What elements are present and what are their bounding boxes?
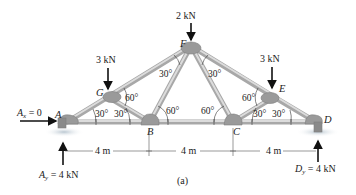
joint-label-f: F: [179, 38, 187, 49]
joint-label-e: E: [278, 83, 286, 94]
angle-g-upper: 60°: [125, 93, 139, 103]
dimension-labels: 4 m 4 m 4 m: [95, 145, 282, 156]
joint-label-b: B: [147, 126, 154, 137]
angle-e-right: 30°: [272, 109, 286, 119]
reaction-label-ay: Ay = 4 kN: [38, 169, 79, 182]
joint-label-c: C: [233, 126, 241, 137]
load-label-g: 3 kN: [96, 54, 116, 65]
gusset-g: [103, 92, 121, 103]
joint-label-a: A: [54, 109, 62, 120]
dimension-ab: 4 m: [95, 145, 111, 156]
angle-g-right: 30°: [114, 109, 128, 119]
reaction-label-dy: Dy = 4 kN: [294, 163, 336, 176]
joint-label-d: D: [323, 114, 332, 125]
angle-c-left: 60°: [201, 106, 215, 116]
joint-label-g: G: [96, 87, 104, 98]
angle-e-left: 30°: [253, 109, 267, 119]
angle-e-upper: 60°: [242, 93, 256, 103]
angle-g-left: 30°: [95, 109, 109, 119]
support-shadow-a: [44, 127, 84, 137]
gusset-e: [261, 93, 279, 104]
dimension-bc: 4 m: [181, 145, 197, 156]
angle-labels: 60° 30° 30° 30° 30° 60° 60° 60° 30° 30°: [95, 69, 286, 119]
angle-f-right: 30°: [208, 69, 222, 79]
dimension-cd: 4 m: [266, 145, 282, 156]
load-label-f: 2 kN: [176, 10, 196, 21]
load-label-e: 3 kN: [260, 53, 280, 64]
truss-diagram: 60° 30° 30° 30° 30° 60° 60° 60° 30° 30° …: [0, 0, 356, 195]
support-pin-d: [314, 122, 322, 132]
reaction-label-ax: Ax = 0: [16, 107, 42, 120]
angle-f-left: 30°: [159, 69, 173, 79]
angle-b-right: 60°: [166, 106, 180, 116]
figure-caption: (a): [177, 175, 188, 187]
